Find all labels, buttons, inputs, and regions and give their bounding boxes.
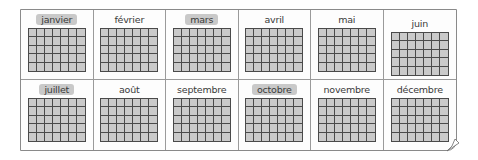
day-cell[interactable] — [125, 37, 133, 45]
day-cell[interactable] — [400, 58, 408, 66]
month-juin[interactable]: juin — [384, 10, 457, 80]
day-cell[interactable] — [270, 107, 278, 115]
day-cell[interactable] — [424, 41, 432, 49]
day-cell[interactable] — [69, 116, 77, 124]
day-cell[interactable] — [343, 63, 351, 71]
day-cell[interactable] — [416, 107, 424, 115]
day-cell[interactable] — [408, 133, 416, 141]
day-cell[interactable] — [424, 116, 432, 124]
day-cell[interactable] — [335, 54, 343, 62]
day-cell[interactable] — [117, 63, 125, 71]
day-cell[interactable] — [392, 33, 400, 41]
month-mai[interactable]: mai — [311, 10, 384, 80]
day-cell[interactable] — [351, 63, 359, 71]
day-cell[interactable] — [327, 37, 335, 45]
day-cell[interactable] — [408, 33, 416, 41]
day-cell[interactable] — [109, 99, 117, 107]
day-cell[interactable] — [125, 63, 133, 71]
day-cell[interactable] — [359, 54, 367, 62]
day-cell[interactable] — [335, 107, 343, 115]
day-cell[interactable] — [408, 116, 416, 124]
day-cell[interactable] — [53, 46, 61, 54]
day-cell[interactable] — [198, 37, 206, 45]
day-cell[interactable] — [440, 107, 448, 115]
day-cell[interactable] — [270, 37, 278, 45]
day-cell[interactable] — [174, 124, 182, 132]
day-cell[interactable] — [432, 58, 440, 66]
day-cell[interactable] — [327, 133, 335, 141]
day-cell[interactable] — [133, 29, 141, 37]
day-cell[interactable] — [141, 46, 149, 54]
day-cell[interactable] — [359, 46, 367, 54]
day-cell[interactable] — [190, 46, 198, 54]
day-cell[interactable] — [133, 116, 141, 124]
day-cell[interactable] — [37, 116, 45, 124]
day-cell[interactable] — [182, 63, 190, 71]
day-cell[interactable] — [254, 107, 262, 115]
day-cell[interactable] — [29, 54, 37, 62]
day-cell[interactable] — [367, 116, 375, 124]
day-cell[interactable] — [198, 99, 206, 107]
day-cell[interactable] — [77, 46, 85, 54]
day-cell[interactable] — [400, 107, 408, 115]
day-cell[interactable] — [319, 99, 327, 107]
day-cell[interactable] — [190, 107, 198, 115]
day-cell[interactable] — [198, 63, 206, 71]
day-cell[interactable] — [278, 54, 286, 62]
day-cell[interactable] — [408, 50, 416, 58]
day-cell[interactable] — [37, 133, 45, 141]
day-cell[interactable] — [61, 63, 69, 71]
day-cell[interactable] — [77, 37, 85, 45]
day-cell[interactable] — [214, 116, 222, 124]
day-cell[interactable] — [335, 46, 343, 54]
day-cell[interactable] — [190, 124, 198, 132]
day-cell[interactable] — [343, 29, 351, 37]
day-cell[interactable] — [294, 116, 302, 124]
day-cell[interactable] — [29, 124, 37, 132]
day-cell[interactable] — [141, 133, 149, 141]
day-cell[interactable] — [190, 99, 198, 107]
day-cell[interactable] — [174, 54, 182, 62]
day-cell[interactable] — [69, 46, 77, 54]
day-cell[interactable] — [149, 37, 157, 45]
month-day-grid[interactable] — [245, 98, 303, 142]
day-cell[interactable] — [182, 37, 190, 45]
day-cell[interactable] — [45, 54, 53, 62]
day-cell[interactable] — [254, 29, 262, 37]
day-cell[interactable] — [45, 116, 53, 124]
day-cell[interactable] — [262, 37, 270, 45]
day-cell[interactable] — [109, 107, 117, 115]
day-cell[interactable] — [392, 67, 400, 75]
day-cell[interactable] — [319, 133, 327, 141]
day-cell[interactable] — [206, 99, 214, 107]
day-cell[interactable] — [117, 116, 125, 124]
day-cell[interactable] — [190, 37, 198, 45]
day-cell[interactable] — [141, 37, 149, 45]
day-cell[interactable] — [222, 46, 230, 54]
month-octobre[interactable]: octobre — [239, 80, 312, 150]
month-avril[interactable]: avril — [239, 10, 312, 80]
day-cell[interactable] — [327, 54, 335, 62]
day-cell[interactable] — [206, 133, 214, 141]
day-cell[interactable] — [359, 99, 367, 107]
day-cell[interactable] — [117, 124, 125, 132]
day-cell[interactable] — [45, 37, 53, 45]
day-cell[interactable] — [133, 133, 141, 141]
day-cell[interactable] — [367, 63, 375, 71]
day-cell[interactable] — [182, 107, 190, 115]
day-cell[interactable] — [125, 133, 133, 141]
day-cell[interactable] — [432, 116, 440, 124]
day-cell[interactable] — [416, 124, 424, 132]
month-day-grid[interactable] — [173, 28, 231, 72]
day-cell[interactable] — [286, 116, 294, 124]
day-cell[interactable] — [214, 37, 222, 45]
day-cell[interactable] — [45, 133, 53, 141]
month-novembre[interactable]: novembre — [311, 80, 384, 150]
day-cell[interactable] — [182, 124, 190, 132]
day-cell[interactable] — [286, 46, 294, 54]
day-cell[interactable] — [351, 99, 359, 107]
day-cell[interactable] — [424, 67, 432, 75]
day-cell[interactable] — [77, 99, 85, 107]
month-decembre[interactable]: décembre — [384, 80, 457, 150]
day-cell[interactable] — [367, 99, 375, 107]
